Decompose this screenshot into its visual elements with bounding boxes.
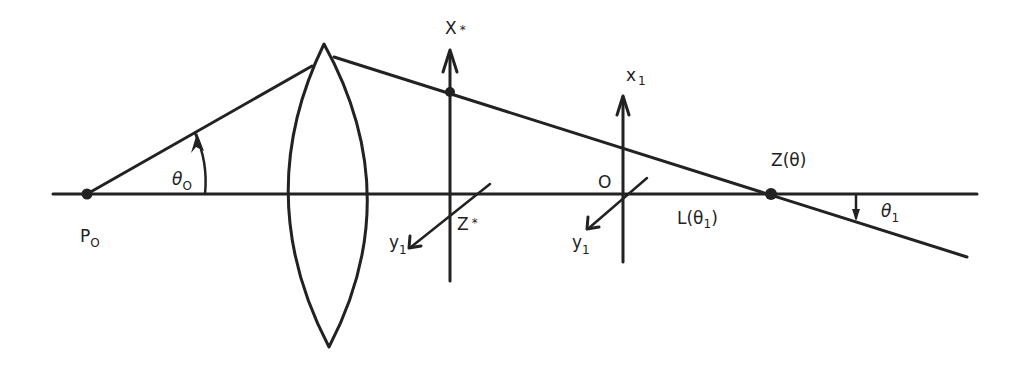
label-p0: PO [80,226,100,250]
label-z-theta: Z(θ) [771,150,806,170]
label-x1: x1 [626,65,646,88]
label-theta1: θ1 [881,201,899,225]
label-origin-o: O [598,172,611,192]
optical-ray-diagram: PO θO X* Z* y1 x1 O y1 L(θ1) Z(θ) θ1 [0,0,1027,374]
x-star-intersection-dot [445,87,455,97]
label-y1-o: y1 [572,232,590,257]
theta0-arrowhead-icon [191,133,204,153]
label-z-star: Z* [457,214,478,234]
incident-ray [87,66,312,194]
label-length: L(θ1) [677,208,718,231]
theta1-arrowhead-icon [852,209,860,221]
label-x-star: X* [445,18,466,38]
label-theta0: θO [172,169,192,193]
refracted-ray [334,57,967,257]
label-y1-zstar: y1 [389,232,407,257]
focus-point-dot [765,188,777,200]
